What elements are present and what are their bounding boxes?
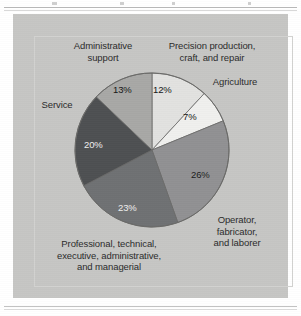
slice-value-precision-production: 12%: [153, 85, 172, 95]
slice-label-operator-fabricator-laborer: Operator, fabricator, and laborer: [196, 214, 278, 249]
slice-value-professional-technical: 23%: [118, 203, 137, 213]
slice-label-service: Service: [28, 99, 86, 111]
slice-label-precision-production: Precision production, craft, and repair: [152, 40, 272, 63]
slice-label-agriculture: Agriculture: [198, 76, 272, 88]
slice-value-service: 20%: [84, 140, 103, 150]
pie-svg: [74, 72, 230, 228]
slice-value-agriculture: 7%: [183, 112, 197, 122]
pie-chart: Administrative support Precision product…: [0, 0, 301, 316]
slice-label-administrative-support: Administrative support: [55, 40, 151, 63]
slice-value-operator-fabricator-laborer: 26%: [191, 170, 210, 180]
slice-label-professional-technical: Professional, technical, executive, admi…: [26, 238, 192, 273]
slice-value-administrative-support: 13%: [113, 85, 132, 95]
